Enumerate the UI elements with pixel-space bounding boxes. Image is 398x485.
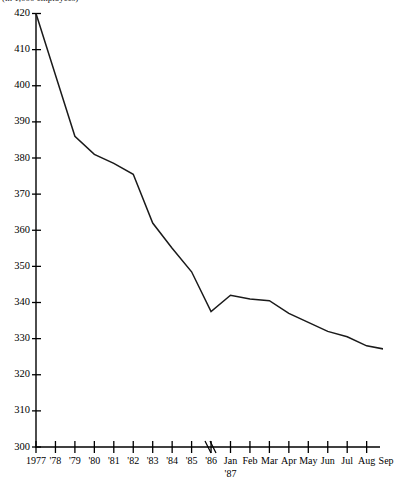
y-tick-label: 390 xyxy=(0,115,30,126)
x-tick-label: Sep xyxy=(374,455,398,466)
y-tick-label: 320 xyxy=(0,368,30,379)
y-tick-label: 370 xyxy=(0,188,30,199)
y-tick-label: 340 xyxy=(0,296,30,307)
y-tick-label: 380 xyxy=(0,152,30,163)
y-tick-label: 360 xyxy=(0,224,30,235)
x-tick-sublabel: '87 xyxy=(219,468,243,479)
y-tick-label: 300 xyxy=(0,441,30,452)
y-tick-label: 350 xyxy=(0,260,30,271)
y-tick-label: 400 xyxy=(0,79,30,90)
y-tick-label: 420 xyxy=(0,7,30,18)
y-tick-label: 310 xyxy=(0,404,30,415)
y-tick-label: 330 xyxy=(0,332,30,343)
y-tick-label: 410 xyxy=(0,43,30,54)
data-series-line xyxy=(36,14,383,350)
